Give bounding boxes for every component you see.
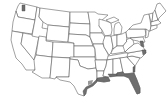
highlight-florida	[117, 72, 140, 94]
state-iowa	[90, 33, 105, 44]
state-montana	[39, 8, 70, 27]
highlight-puget-sound	[22, 5, 25, 11]
state-arizona	[32, 55, 52, 78]
state-colorado	[52, 42, 74, 58]
state-pennsylvania	[126, 29, 146, 38]
highlight-georgia-coast	[133, 66, 135, 72]
us-state-map	[0, 0, 168, 110]
state-connecticut	[150, 25, 157, 31]
state-new-mexico	[50, 57, 70, 79]
state-wyoming	[46, 25, 69, 42]
highlight-louisiana-coast	[97, 77, 110, 82]
state-north-dakota	[70, 12, 90, 24]
state-kansas	[74, 46, 95, 57]
